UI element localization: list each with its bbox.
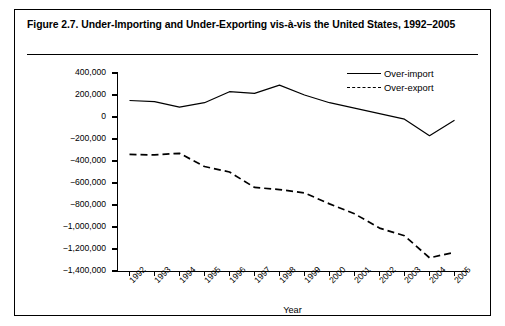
chart-series-layer (0, 0, 505, 326)
legend-item-over-export[interactable]: Over-export (345, 80, 475, 94)
legend-line-swatch (345, 82, 383, 92)
legend-line-swatch (345, 68, 383, 78)
chart-legend: Over-importOver-export (345, 66, 475, 94)
legend-item-over-import[interactable]: Over-import (345, 66, 475, 80)
legend-label: Over-import (384, 68, 433, 79)
legend-label: Over-export (384, 82, 434, 93)
series-line-over-export (130, 153, 455, 257)
figure-container: Figure 2.7. Under-Importing and Under-Ex… (0, 0, 505, 326)
